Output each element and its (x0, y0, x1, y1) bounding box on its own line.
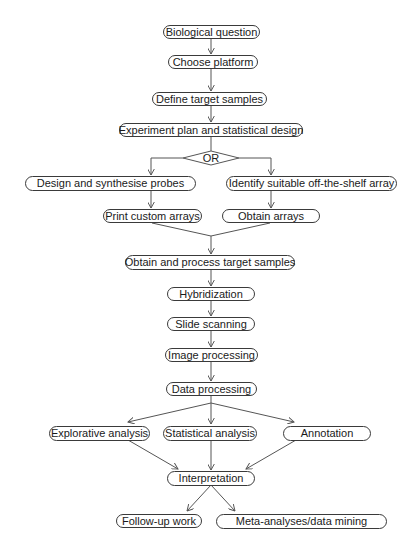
node-obtain-process-target-samples: Obtain and process target samples (125, 255, 295, 270)
node-explorative-analysis: Explorative analysis (49, 426, 150, 441)
node-meta-analyses-data-mining: Meta-analyses/data mining (216, 514, 387, 529)
or-decision-label: OR (195, 151, 227, 165)
node-annotation: Annotation (283, 426, 371, 441)
node-biological-question: Biological question (163, 25, 260, 39)
node-design-synthesise-probes: Design and synthesise probes (25, 176, 196, 191)
node-data-processing: Data processing (166, 382, 257, 396)
node-define-target-samples: Define target samples (152, 92, 267, 106)
node-interpretation: Interpretation (167, 471, 255, 486)
node-slide-scanning: Slide scanning (167, 317, 255, 331)
microarray-workflow-flowchart: Biological question Choose platform Defi… (0, 0, 413, 551)
node-print-custom-arrays: Print custom arrays (103, 209, 202, 223)
node-choose-platform: Choose platform (168, 55, 258, 69)
node-experiment-plan: Experiment plan and statistical design (119, 123, 303, 137)
connector-lines (0, 0, 413, 551)
node-image-processing: Image processing (165, 348, 258, 362)
node-statistical-analysis: Statistical analysis (163, 426, 257, 441)
node-hybridization: Hybridization (167, 287, 255, 301)
node-obtain-arrays: Obtain arrays (222, 209, 320, 223)
node-follow-up-work: Follow-up work (116, 514, 202, 528)
node-identify-off-the-shelf-array: Identify suitable off-the-shelf array (226, 176, 397, 191)
